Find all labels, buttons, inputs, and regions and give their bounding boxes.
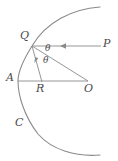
label-curve-c: C	[15, 117, 23, 128]
label-point-a: A	[6, 72, 14, 83]
incoming-ray-arrow-icon	[60, 43, 66, 48]
label-angle-theta-lower: θ	[43, 56, 48, 65]
label-point-r: R	[36, 83, 44, 94]
label-angle-theta-upper: θ	[45, 44, 50, 53]
geometry-figure: Q P θ θ A R O C	[0, 0, 118, 161]
figure-canvas	[0, 0, 118, 161]
label-point-q: Q	[20, 30, 29, 41]
label-point-o: O	[84, 83, 93, 94]
label-point-p: P	[103, 38, 110, 49]
